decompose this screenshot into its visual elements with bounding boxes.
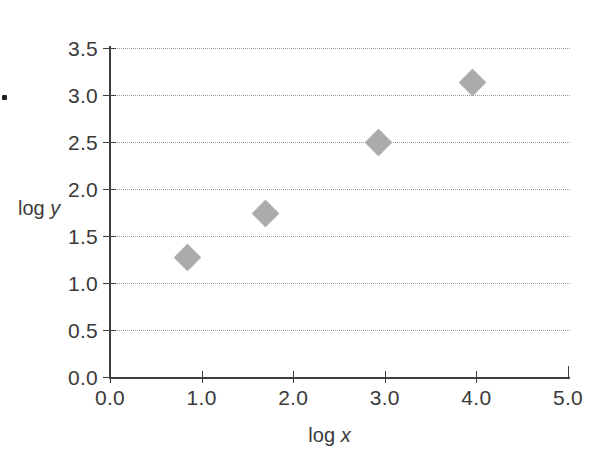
y-axis-tick-label: 0.0: [44, 367, 98, 388]
x-axis-line: [109, 377, 570, 379]
y-axis-tick-label: 3.0: [44, 85, 98, 106]
y-axis-title-plain: log: [18, 197, 45, 219]
x-axis-title-plain: log: [308, 424, 335, 446]
scan-artifact-dot: [2, 95, 7, 100]
x-axis-tick: [568, 366, 569, 378]
data-point-marker: [365, 130, 392, 157]
x-axis-tick-label: 2.0: [258, 387, 328, 408]
data-point-marker: [174, 244, 201, 271]
y-axis-tick-label: 0.5: [44, 320, 98, 341]
x-axis-tick-label: 1.0: [167, 387, 237, 408]
x-axis-title: log x: [0, 425, 604, 445]
x-axis-tick-label: 3.0: [350, 387, 420, 408]
y-axis-title-variable: y: [50, 197, 60, 219]
y-axis-tick-label: 2.5: [44, 132, 98, 153]
y-axis-tick-label: 1.5: [44, 226, 98, 247]
y-axis-tick-label: 3.5: [44, 38, 98, 59]
y-axis-tick-label: 1.0: [44, 273, 98, 294]
x-axis-tick-label: 0.0: [75, 387, 145, 408]
x-axis-tick-label: 4.0: [441, 387, 511, 408]
data-point-marker: [252, 200, 279, 227]
data-point-marker: [459, 69, 486, 96]
plot-area: [110, 48, 568, 377]
x-axis-title-variable: x: [341, 424, 351, 446]
scatter-chart-figure: 0.00.51.01.52.02.53.03.5 0.01.02.03.04.0…: [0, 0, 604, 469]
y-axis-title: log y: [18, 198, 60, 218]
x-axis-tick-label: 5.0: [533, 387, 603, 408]
